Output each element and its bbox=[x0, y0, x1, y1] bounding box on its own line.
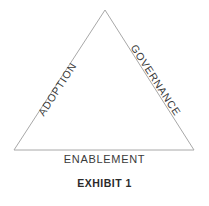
triangle-outline bbox=[14, 10, 194, 150]
edge-label-enablement: ENABLEMENT bbox=[0, 153, 209, 165]
exhibit-figure: ADOPTION GOVERNANCE ENABLEMENT EXHIBIT 1 bbox=[0, 0, 209, 206]
figure-caption: EXHIBIT 1 bbox=[0, 177, 209, 189]
